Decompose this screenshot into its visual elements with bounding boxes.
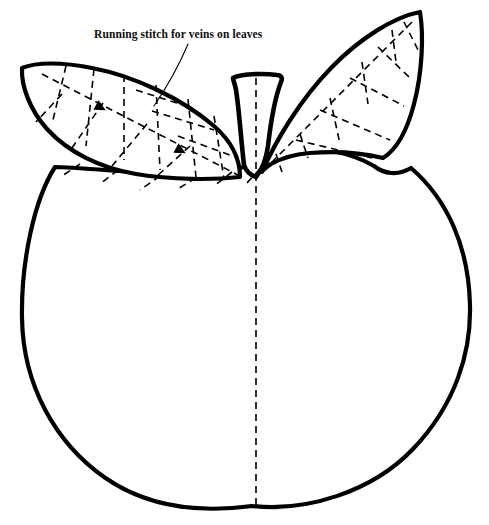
pattern-canvas: Running stitch for veins on leaves [0,0,489,525]
apple-pattern-illustration: Running stitch for veins on leaves [0,0,489,525]
apple-body-outline [22,149,470,509]
annotation-label: Running stitch for veins on leaves [94,28,263,41]
